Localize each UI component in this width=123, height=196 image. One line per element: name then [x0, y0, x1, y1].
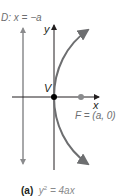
- caption-tag: (a): [21, 185, 33, 196]
- focus-point: [78, 94, 84, 100]
- caption-equation-rhs: = 4ax: [47, 185, 75, 196]
- parabola-lower-branch: [54, 97, 88, 164]
- focus-label: F = (a, 0): [75, 111, 116, 121]
- figure-caption: (a) y2 = 4ax: [21, 185, 75, 196]
- parabola-diagram: [0, 0, 123, 196]
- y-axis-label: y: [44, 24, 50, 35]
- vertex-label: V: [44, 83, 51, 94]
- parabola-upper-branch: [54, 30, 88, 97]
- vertex-point: [51, 94, 57, 100]
- directrix-label: D: x = −a: [1, 13, 42, 23]
